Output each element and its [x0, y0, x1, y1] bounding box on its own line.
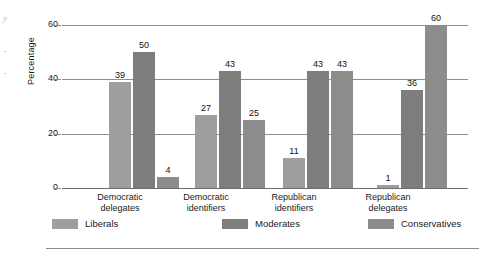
bar: 25 — [243, 120, 265, 188]
category-label: Republicanidentifiers — [249, 192, 339, 213]
legend-label: Conservatives — [401, 219, 461, 229]
bar-value-label: 43 — [225, 60, 235, 69]
bar: 4 — [157, 177, 179, 188]
y-tick-mark — [54, 188, 61, 189]
category-label: Democraticidentifiers — [161, 192, 251, 213]
y-tick-20: 20 — [28, 134, 58, 135]
y-tick-0: 0 — [28, 188, 58, 189]
category-label: Republicandelegates — [343, 192, 433, 213]
bar-value-label: 39 — [115, 71, 125, 80]
bar: 11 — [283, 158, 305, 188]
y-axis-title: Percentage — [26, 16, 36, 106]
legend-label: Liberals — [85, 219, 118, 229]
bar-value-label: 1 — [385, 174, 390, 183]
bar-value-label: 4 — [165, 166, 170, 175]
bar-value-label: 50 — [139, 41, 149, 50]
chart-legend: LiberalsModeratesConservatives — [0, 219, 485, 239]
bar: 1 — [377, 185, 399, 188]
category-label-line: delegates — [343, 203, 433, 214]
gridline-0 — [62, 188, 468, 189]
category-label: Democraticdelegates — [75, 192, 165, 213]
bar-value-label: 25 — [249, 109, 259, 118]
y-tick-mark — [54, 79, 61, 80]
category-label-line: Democratic — [75, 192, 165, 203]
category-label-line: identifiers — [161, 203, 251, 214]
legend-swatch — [368, 219, 394, 229]
bar: 50 — [133, 52, 155, 188]
category-label-line: Republican — [249, 192, 339, 203]
bar: 39 — [109, 82, 131, 188]
bar: 43 — [331, 71, 353, 188]
bar-value-label: 43 — [337, 60, 347, 69]
category-label-line: Democratic — [161, 192, 251, 203]
y-tick-40: 40 — [28, 79, 58, 80]
bar: 36 — [401, 90, 423, 188]
legend-label: Moderates — [255, 219, 300, 229]
grouped-bar-chart: Percentage 0204060 395042743251143431366… — [0, 0, 485, 262]
y-tick-60: 60 — [28, 25, 58, 26]
bar-value-label: 43 — [313, 60, 323, 69]
bar-value-label: 27 — [201, 104, 211, 113]
bar: 27 — [195, 115, 217, 188]
y-tick-mark — [54, 25, 61, 26]
category-label-line: identifiers — [249, 203, 339, 214]
plot-area: 3950427432511434313660 — [62, 25, 468, 188]
legend-swatch — [222, 219, 248, 229]
bottom-divider-rule — [46, 248, 479, 249]
bar-value-label: 36 — [407, 79, 417, 88]
legend-swatch — [52, 219, 78, 229]
legend-item-conservatives[interactable]: Conservatives — [368, 219, 461, 229]
bar: 43 — [307, 71, 329, 188]
bar-value-label: 60 — [431, 14, 441, 23]
bar-value-label: 11 — [289, 147, 298, 156]
category-label-line: delegates — [75, 203, 165, 214]
bar: 60 — [425, 25, 447, 188]
category-label-line: Republican — [343, 192, 433, 203]
gridline-60 — [62, 25, 468, 26]
bar: 43 — [219, 71, 241, 188]
legend-item-liberals[interactable]: Liberals — [52, 219, 118, 229]
legend-item-moderates[interactable]: Moderates — [222, 219, 300, 229]
y-tick-mark — [54, 134, 61, 135]
